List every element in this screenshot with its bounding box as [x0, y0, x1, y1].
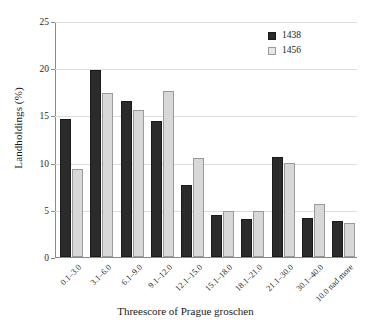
bar-group [60, 22, 84, 257]
y-tick-mark [51, 116, 55, 117]
bar-group [302, 22, 326, 257]
bar [223, 211, 234, 257]
bar-group [121, 22, 145, 257]
bar [133, 110, 144, 257]
y-tick-label: 15 [9, 111, 49, 121]
y-axis-title: Landholdings (%) [12, 53, 24, 203]
y-tick-label: 20 [9, 64, 49, 74]
bar-group [151, 22, 175, 257]
y-axis-line [55, 22, 56, 258]
bar [90, 70, 101, 257]
bar-group [332, 22, 356, 257]
bar-group [241, 22, 265, 257]
y-tick-label: 25 [9, 17, 49, 27]
bar [253, 211, 264, 257]
bar-chart: Landholdings (%) 0510152025 0.1–3.03.1–6… [0, 0, 371, 336]
plot-area [55, 22, 357, 258]
y-tick-mark [51, 258, 55, 259]
bar [314, 204, 325, 257]
legend-label-1438: 1438 [282, 28, 301, 43]
x-axis-title: Threescore of Prague groschen [0, 305, 371, 317]
legend-label-1456: 1456 [282, 43, 301, 58]
bar [193, 158, 204, 257]
bar [163, 91, 174, 257]
bar [151, 121, 162, 257]
y-tick-mark [51, 22, 55, 23]
bar [121, 101, 132, 257]
y-tick-mark [51, 164, 55, 165]
bar-group [211, 22, 235, 257]
bar [72, 169, 83, 257]
bar [60, 119, 71, 257]
bar [102, 93, 113, 257]
y-tick-label: 5 [9, 206, 49, 216]
chart-legend: 1438 1456 [268, 28, 301, 58]
legend-item-1438: 1438 [268, 28, 301, 43]
y-tick-mark [51, 211, 55, 212]
legend-swatch-icon-1456 [268, 47, 276, 55]
cropped-caption [8, 329, 363, 336]
legend-item-1456: 1456 [268, 43, 301, 58]
y-tick-label: 10 [9, 159, 49, 169]
bar [344, 223, 355, 257]
bar-group [181, 22, 205, 257]
y-tick-mark [51, 69, 55, 70]
bar-group [90, 22, 114, 257]
y-tick-label: 0 [9, 253, 49, 263]
legend-swatch-icon-1438 [268, 32, 276, 40]
